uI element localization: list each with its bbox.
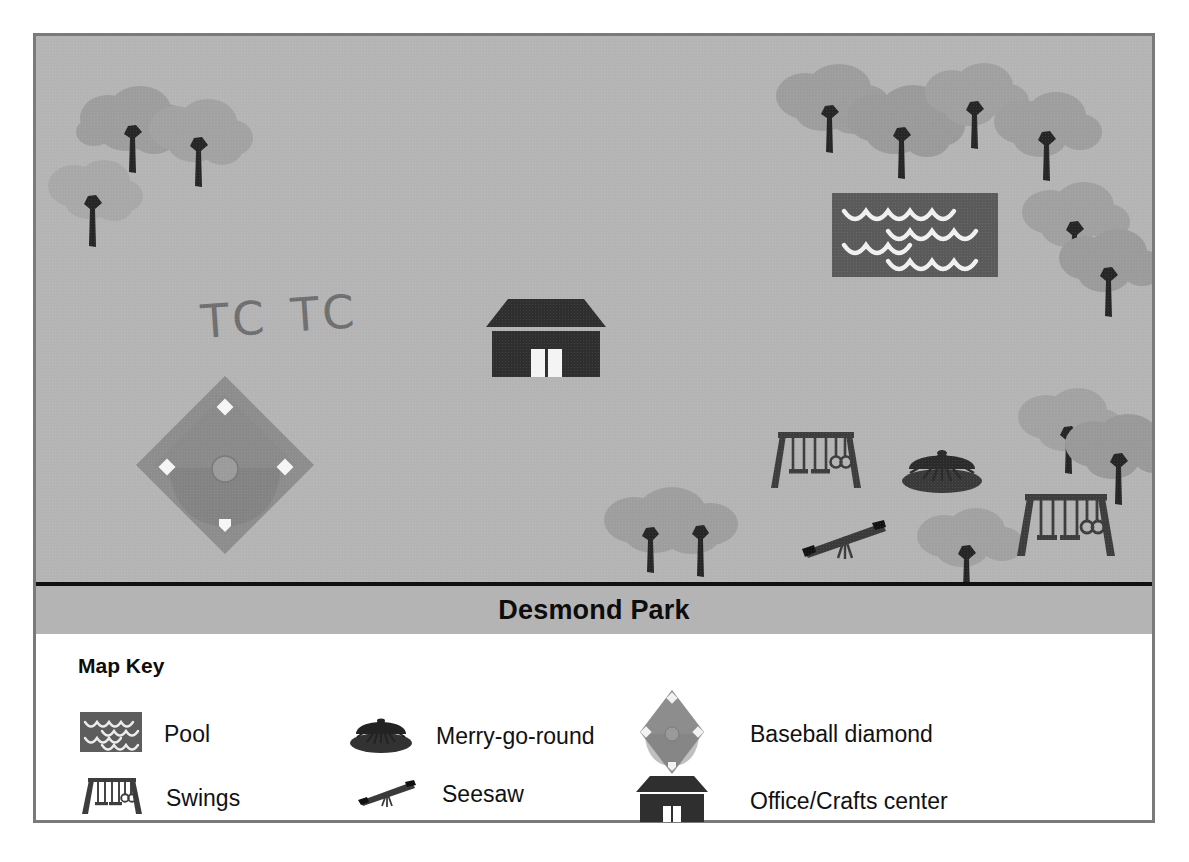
swings-icon [80, 774, 144, 822]
handwritten-annotation: TC TC [199, 284, 362, 349]
key-label-baseball-diamond: Baseball diamond [750, 721, 933, 748]
pool-icon [80, 712, 142, 756]
seesaw-icon [798, 511, 890, 563]
map-key-panel: Map Key Pool [36, 634, 1152, 820]
key-item-baseball-diamond: Baseball diamond [636, 686, 933, 782]
key-item-merry-go-round: Merry-go-round [348, 712, 595, 760]
office-crafts-center-icon [486, 299, 606, 377]
key-item-pool: Pool [80, 712, 210, 756]
tree-icon [1054, 224, 1152, 332]
seesaw-icon [356, 774, 418, 814]
merry-go-round-icon [899, 441, 985, 497]
park-map-area: TC TC [36, 36, 1152, 582]
key-label-office-crafts-center: Office/Crafts center [750, 788, 948, 815]
key-label-pool: Pool [164, 721, 210, 748]
key-label-seesaw: Seesaw [442, 781, 524, 808]
baseball-diamond-icon [136, 376, 314, 554]
pool-icon [832, 193, 998, 277]
key-label-merry-go-round: Merry-go-round [436, 723, 595, 750]
tree-icon [44, 154, 149, 259]
page-title: Desmond Park [498, 595, 689, 626]
swings-icon [1012, 488, 1120, 566]
swings-icon [766, 426, 866, 498]
office-crafts-icon [636, 776, 708, 826]
map-frame: TC TC Desmond Park Map Key [33, 33, 1155, 823]
tree-icon [598, 484, 743, 582]
key-item-swings: Swings [80, 774, 240, 822]
map-page: TC TC Desmond Park Map Key [0, 0, 1189, 862]
key-item-seesaw: Seesaw [356, 774, 524, 814]
tree-icon [144, 94, 254, 199]
map-key-title: Map Key [78, 654, 164, 678]
key-label-swings: Swings [166, 785, 240, 812]
merry-go-round-icon [348, 712, 414, 760]
tree-icon [912, 504, 1027, 582]
key-item-office-crafts-center: Office/Crafts center [636, 776, 948, 826]
map-title-band: Desmond Park [36, 582, 1152, 634]
baseball-diamond-icon [636, 686, 708, 782]
